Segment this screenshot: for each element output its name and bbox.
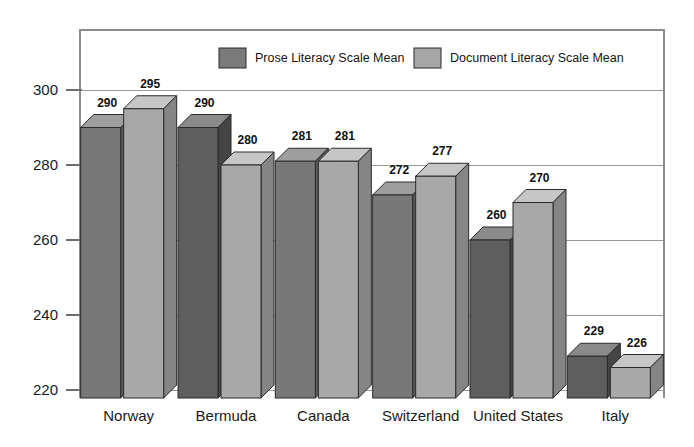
bar-value-label: 260 xyxy=(486,208,506,222)
bar-value-label: 270 xyxy=(529,171,549,185)
bar-value-label: 226 xyxy=(627,336,647,350)
chart-legend: Prose Literacy Scale MeanDocument Litera… xyxy=(219,48,624,68)
bar-value-label: 295 xyxy=(140,77,160,91)
legend-swatch-2 xyxy=(414,48,441,68)
bar-front-face xyxy=(81,128,121,399)
bar-side-face xyxy=(261,152,274,398)
bar-canada-series-2 xyxy=(318,148,371,398)
x-category-label: Switzerland xyxy=(382,407,460,424)
x-category-label: Canada xyxy=(297,407,350,424)
bar-front-face xyxy=(416,176,456,398)
grouped-bar-chart-3d: 220240260280300 290295290280281281272277… xyxy=(0,0,694,447)
bar-united-states-series-2 xyxy=(513,190,566,399)
bar-front-face xyxy=(513,203,553,399)
bar-front-face xyxy=(470,240,510,398)
bar-side-face xyxy=(164,96,177,398)
x-category-label: Italy xyxy=(602,407,630,424)
y-tick-label: 220 xyxy=(33,381,58,398)
bar-value-label: 280 xyxy=(237,133,257,147)
bar-side-face xyxy=(456,163,469,398)
bar-value-label: 229 xyxy=(584,324,604,338)
bar-front-face xyxy=(610,368,650,399)
x-category-label: Norway xyxy=(103,407,154,424)
bar-front-face xyxy=(178,128,218,399)
y-tick-label: 280 xyxy=(33,156,58,173)
x-category-label: Bermuda xyxy=(196,407,258,424)
bar-value-label: 281 xyxy=(335,129,355,143)
bar-switzerland-series-2 xyxy=(416,163,469,398)
y-tick-label: 240 xyxy=(33,306,58,323)
bar-value-label: 277 xyxy=(432,144,452,158)
bar-front-face xyxy=(275,161,315,398)
bar-norway-series-2 xyxy=(124,96,177,398)
y-tick-label: 260 xyxy=(33,231,58,248)
bar-front-face xyxy=(567,356,607,398)
bar-front-face xyxy=(221,165,261,398)
bar-italy-series-2 xyxy=(610,355,663,399)
bar-value-label: 290 xyxy=(194,96,214,110)
bar-value-label: 290 xyxy=(97,96,117,110)
bar-side-face xyxy=(358,148,371,398)
y-tick-label: 300 xyxy=(33,81,58,98)
legend-label-1: Prose Literacy Scale Mean xyxy=(255,51,404,65)
legend-swatch-1 xyxy=(219,48,246,68)
bar-value-label: 272 xyxy=(389,163,409,177)
chart-container: 220240260280300 290295290280281281272277… xyxy=(0,0,694,447)
bar-front-face xyxy=(318,161,358,398)
x-category-label: United States xyxy=(473,407,563,424)
bar-value-label: 281 xyxy=(292,129,312,143)
bar-side-face xyxy=(553,190,566,399)
bar-bermuda-series-2 xyxy=(221,152,274,398)
bar-front-face xyxy=(373,195,413,398)
bar-front-face xyxy=(124,109,164,398)
legend-label-2: Document Literacy Scale Mean xyxy=(450,51,624,65)
